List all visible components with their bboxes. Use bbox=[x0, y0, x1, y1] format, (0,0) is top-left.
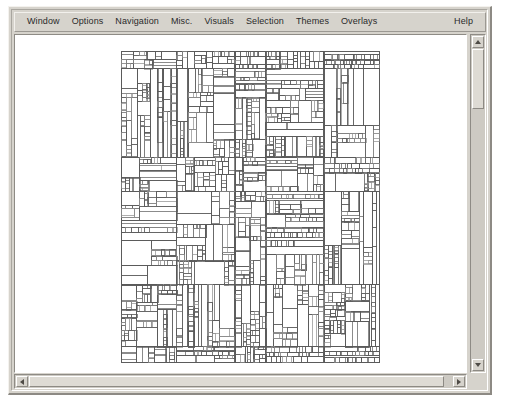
horizontal-scrollbar[interactable] bbox=[14, 374, 467, 389]
scroll-down-button[interactable] bbox=[472, 359, 484, 371]
triangle-down-icon bbox=[475, 363, 481, 367]
triangle-left-icon bbox=[20, 379, 24, 385]
menu-item-visuals[interactable]: Visuals bbox=[198, 15, 240, 29]
menu-item-overlays[interactable]: Overlays bbox=[335, 15, 383, 29]
triangle-up-icon bbox=[475, 40, 481, 44]
vertical-scrollbar[interactable] bbox=[470, 34, 486, 373]
application-window-inner: Window Options Navigation Misc. Visuals … bbox=[11, 9, 488, 391]
menu-bar: Window Options Navigation Misc. Visuals … bbox=[14, 12, 486, 32]
scroll-up-button[interactable] bbox=[472, 36, 484, 48]
menu-item-help[interactable]: Help bbox=[448, 15, 479, 29]
triangle-right-icon bbox=[457, 379, 461, 385]
drawing-canvas-frame bbox=[14, 34, 467, 373]
scroll-left-button[interactable] bbox=[16, 376, 28, 387]
screenshot-root: Window Options Navigation Misc. Visuals … bbox=[0, 0, 514, 418]
menu-item-themes[interactable]: Themes bbox=[290, 15, 335, 29]
menu-item-options[interactable]: Options bbox=[66, 15, 110, 29]
menu-item-navigation[interactable]: Navigation bbox=[109, 15, 165, 29]
menu-item-selection[interactable]: Selection bbox=[240, 15, 290, 29]
vertical-scrollbar-thumb[interactable] bbox=[472, 49, 484, 109]
horizontal-scrollbar-thumb[interactable] bbox=[29, 376, 444, 387]
application-window: Window Options Navigation Misc. Visuals … bbox=[8, 6, 492, 395]
client-area bbox=[14, 34, 486, 389]
treemap-diagram[interactable] bbox=[15, 35, 467, 373]
menu-item-misc[interactable]: Misc. bbox=[165, 15, 199, 29]
drawing-canvas[interactable] bbox=[15, 35, 466, 372]
menu-item-window[interactable]: Window bbox=[21, 15, 66, 29]
scroll-right-button[interactable] bbox=[453, 376, 465, 387]
